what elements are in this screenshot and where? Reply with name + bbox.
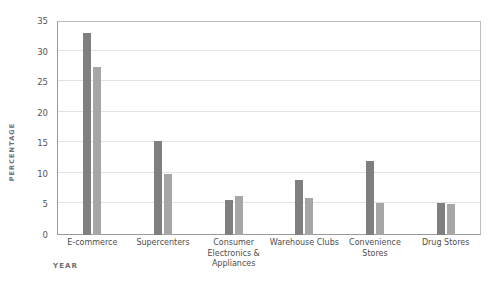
bar (376, 203, 384, 235)
y-tick-label-20: 20 (0, 109, 48, 118)
x-tick-label: E-commerce (57, 238, 128, 249)
y-tick-label-30: 30 (0, 48, 48, 57)
x-tick-label: Consumer Electronics & Appliances (198, 238, 269, 270)
y-axis-tick-labels: 05101520253035 (0, 0, 52, 293)
bar (366, 161, 374, 235)
x-tick-label: Drug Stores (410, 238, 481, 249)
bar (447, 204, 455, 235)
x-axis-title: YEAR (53, 262, 78, 270)
bar (83, 33, 91, 235)
bar (235, 196, 243, 235)
x-tick-label: Supercenters (128, 238, 199, 249)
y-tick-label-25: 25 (0, 78, 48, 87)
bar-group (295, 21, 313, 235)
bar-group (366, 21, 384, 235)
bar (164, 174, 172, 235)
bar (225, 200, 233, 235)
bar-group (83, 21, 101, 235)
bar (154, 141, 162, 235)
bar-group (154, 21, 172, 235)
bar-group (437, 21, 455, 235)
bar (295, 180, 303, 235)
x-tick-label: Warehouse Clubs (269, 238, 340, 249)
bars-layer (57, 21, 481, 235)
bar (305, 198, 313, 235)
bar-chart: PERCENTAGE 05101520253035 E-commerceSupe… (0, 0, 495, 293)
x-tick-label: Convenience Stores (340, 238, 411, 259)
bar-group (225, 21, 243, 235)
y-tick-label-35: 35 (0, 17, 48, 26)
bar (437, 203, 445, 235)
y-tick-label-15: 15 (0, 139, 48, 148)
y-tick-label-5: 5 (0, 200, 48, 209)
bar (93, 67, 101, 235)
y-tick-label-0: 0 (0, 231, 48, 240)
y-tick-label-10: 10 (0, 170, 48, 179)
